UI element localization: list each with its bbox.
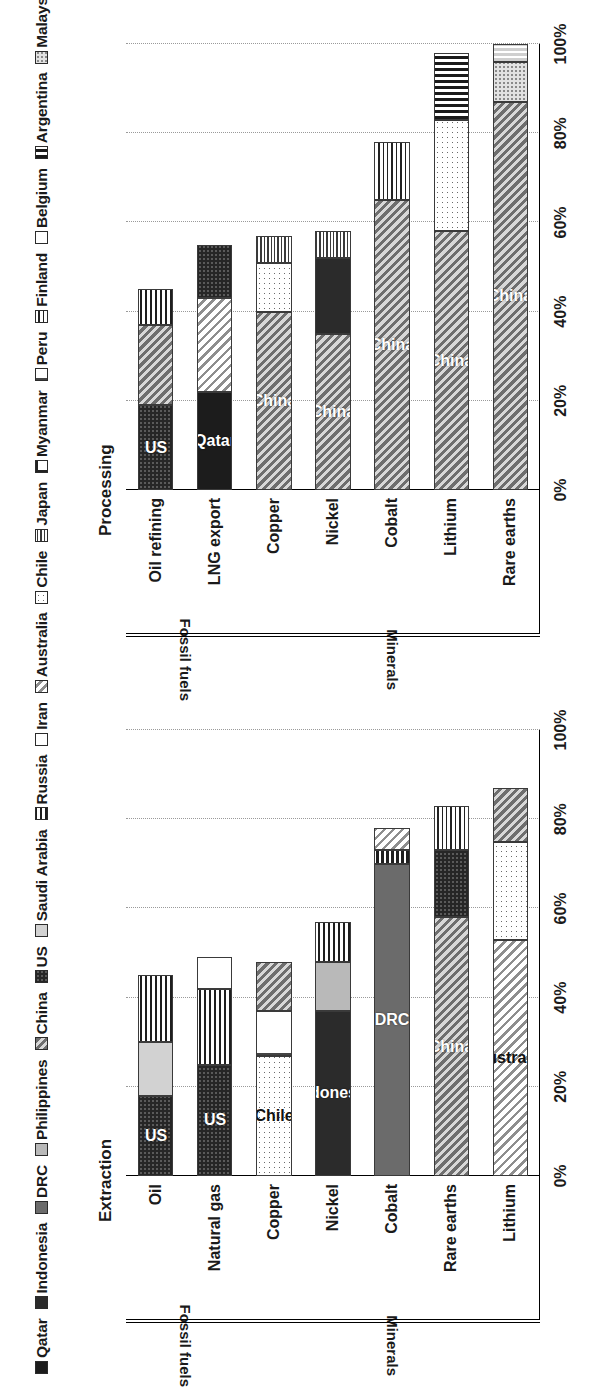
legend-swatch-philippines-icon (35, 1143, 48, 1156)
bar-row: US (197, 730, 232, 1176)
stacked-bar[interactable]: US (138, 975, 173, 1176)
bar-segment-saudi[interactable] (138, 1042, 173, 1096)
legend-swatch-iran-icon (35, 733, 48, 746)
stacked-bar[interactable]: Qatar (197, 245, 232, 490)
legend-item-japan[interactable]: Japan (34, 482, 50, 542)
legend-item-malaysia[interactable]: Malaysia (34, 0, 50, 64)
stacked-bar[interactable]: China (434, 806, 469, 1176)
bar-segment-chile[interactable] (256, 263, 291, 312)
bar-segment-russia[interactable] (138, 289, 173, 325)
axis-frame-left (126, 633, 540, 634)
bar-segment-us[interactable] (434, 850, 469, 917)
legend-item-us[interactable]: US (34, 946, 50, 983)
bar-segment-argentina[interactable] (434, 53, 469, 120)
bar-segment-finland[interactable] (434, 806, 469, 851)
legend-item-saudi[interactable]: Saudi Arabia (34, 830, 50, 938)
bar-segment-drc[interactable]: DRC (374, 864, 409, 1176)
stacked-bar[interactable]: US (197, 957, 232, 1176)
bar-segment-us[interactable]: US (197, 1065, 232, 1176)
bar-segment-peru[interactable] (256, 1011, 291, 1056)
bar-segment-russia[interactable] (138, 975, 173, 1042)
legend-item-myanmar[interactable]: Myanmar (34, 390, 50, 473)
stacked-bar[interactable]: China (374, 142, 409, 490)
legend-label: Chile (34, 551, 50, 588)
bar-segment-chile[interactable] (493, 842, 528, 940)
legend-item-philippines[interactable]: Philippines (34, 1059, 50, 1155)
legend-item-peru[interactable]: Peru (34, 332, 50, 382)
legend-item-drc[interactable]: DRC (34, 1165, 50, 1214)
legend-item-indonesia[interactable]: Indonesia (34, 1223, 50, 1310)
bar-segment-china[interactable] (493, 788, 528, 842)
bar-segment-china[interactable]: China (493, 102, 528, 490)
legend-label: Argentina (34, 73, 50, 144)
category-label: Rare earths (422, 1176, 481, 1320)
bar-segment-china[interactable]: China (434, 231, 469, 490)
legend-swatch-saudi-icon (35, 924, 48, 937)
legend-item-argentina[interactable]: Argentina (34, 73, 50, 160)
bar-segment-japan[interactable] (256, 236, 291, 263)
bar-segment-china[interactable]: China (374, 200, 409, 490)
bar-row: China (434, 44, 469, 490)
legend-swatch-argentina-icon (35, 146, 48, 159)
bar-segment-indonesia[interactable] (315, 258, 350, 334)
axis-tick-label: 100% (552, 24, 570, 65)
bar-segment-indonesia[interactable]: Indonesia (315, 1011, 350, 1176)
stacked-bar[interactable]: China (256, 236, 291, 490)
bar-segment-russia[interactable] (374, 850, 409, 863)
bar-segment-japan[interactable] (315, 231, 350, 258)
legend-item-australia[interactable]: Australia (34, 613, 50, 694)
bar-segment-australia[interactable]: Australia (493, 940, 528, 1176)
bar-segment-china[interactable]: China (434, 917, 469, 1176)
bar-segment-china[interactable]: China (315, 334, 350, 490)
bar-segment-australia[interactable] (374, 828, 409, 850)
legend-item-qatar[interactable]: Qatar (34, 1319, 50, 1375)
bar-segment-australia[interactable] (197, 298, 232, 392)
legend-item-russia[interactable]: Russia (34, 755, 50, 821)
legend-swatch-finland-icon (35, 310, 48, 323)
bar-segment-label: Chile (256, 1107, 291, 1125)
bar-segment-label: Qatar (197, 432, 232, 450)
axis-tick-label: 0% (552, 478, 570, 501)
stacked-bar[interactable]: Indonesia (315, 922, 350, 1176)
bar-segment-us[interactable] (197, 245, 232, 299)
bar-segment-china[interactable]: China (256, 312, 291, 490)
legend-item-finland[interactable]: Finland (34, 253, 50, 323)
bar-segment-chile[interactable]: Chile (256, 1056, 291, 1176)
stacked-bar[interactable]: DRC (374, 828, 409, 1176)
legend-item-china[interactable]: China (34, 992, 50, 1050)
category-label: Lithium (481, 1176, 540, 1320)
stacked-bar[interactable]: US (138, 289, 173, 490)
legend-swatch-china-icon (35, 1037, 48, 1050)
plot-area: USUSChileIndonesiaDRCChinaAustralia (126, 730, 540, 1176)
legend-item-iran[interactable]: Iran (34, 702, 50, 746)
bar-segment-estonia[interactable] (493, 44, 528, 62)
bar-segment-label: China (493, 287, 528, 305)
bar-segment-iran[interactable] (197, 957, 232, 988)
bar-segment-russia[interactable] (197, 989, 232, 1065)
bar-segment-qatar[interactable]: Qatar (197, 392, 232, 490)
stacked-bar[interactable]: China (434, 53, 469, 490)
stacked-bar[interactable]: China (315, 231, 350, 490)
legend-label: Finland (34, 253, 50, 307)
legend-label: Malaysia (34, 0, 50, 48)
stacked-bar[interactable]: Australia (493, 788, 528, 1176)
legend-swatch-malaysia-icon (35, 51, 48, 64)
bar-segment-label: China (434, 352, 469, 370)
bar-segment-finland[interactable] (374, 142, 409, 200)
bar-segment-russia[interactable] (315, 922, 350, 962)
stacked-bar[interactable]: China (493, 44, 528, 490)
bar-segment-china[interactable] (256, 962, 291, 1011)
bar-segment-malaysia[interactable] (493, 62, 528, 102)
bar-segment-chile[interactable] (434, 120, 469, 231)
legend-item-chile[interactable]: Chile (34, 551, 50, 604)
bar-segment-us[interactable]: US (138, 405, 173, 490)
bar-segment-philippines[interactable] (315, 962, 350, 1011)
category-group-text: Fossil fuels (177, 1305, 194, 1388)
legend-label: US (34, 946, 50, 967)
bar-row: Indonesia (315, 730, 350, 1176)
bar-segment-china[interactable] (138, 325, 173, 405)
legend-item-belgium[interactable]: Belgium (34, 168, 50, 244)
value-axis-ticks: 0%20%40%60%80%100% (552, 44, 576, 490)
bar-segment-us[interactable]: US (138, 1096, 173, 1176)
stacked-bar[interactable]: Chile (256, 962, 291, 1176)
